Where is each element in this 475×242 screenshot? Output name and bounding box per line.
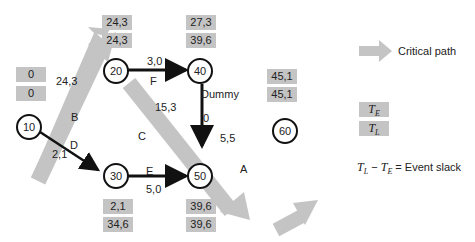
- node-60-tl: 45,1: [267, 87, 297, 102]
- activity-c-name: C: [138, 130, 146, 142]
- activity-e-name: E: [146, 165, 153, 177]
- legend-tl-box: TL: [359, 121, 389, 136]
- node-60: 60: [272, 118, 298, 144]
- activity-b-duration: 24,3: [56, 75, 77, 87]
- node-30-te: 2,1: [103, 199, 133, 214]
- node-40-te: 27,3: [186, 15, 216, 30]
- node-30-tl: 34,6: [103, 217, 133, 232]
- node-30: 30: [103, 163, 129, 189]
- legend-te-box: TE: [359, 102, 389, 117]
- node-10: 10: [16, 114, 42, 140]
- node-50: 50: [187, 163, 213, 189]
- activity-f-duration: 3,0: [147, 55, 162, 67]
- legend-slack-formula: TL − TE = Event slack: [357, 160, 461, 176]
- node-50-te: 39,6: [186, 199, 216, 214]
- activity-dummy-duration: 0: [203, 112, 209, 124]
- legend-critical-label: Critical path: [398, 45, 456, 57]
- node-20: 20: [103, 58, 129, 84]
- node-40: 40: [187, 58, 213, 84]
- activity-c-arrow: [129, 83, 231, 211]
- node-20-tl: 24,3: [102, 33, 132, 48]
- activity-d-duration: 2,1: [52, 148, 67, 160]
- node-10-tl: 0: [16, 86, 46, 101]
- activity-a-name: A: [240, 163, 247, 175]
- node-50-tl: 39,6: [186, 217, 216, 232]
- activity-c-duration: 15,3: [155, 101, 176, 113]
- node-40-tl: 39,6: [186, 33, 216, 48]
- legend-te-t: T: [368, 102, 375, 116]
- activity-b-arrow: [38, 50, 100, 181]
- activity-d-name: D: [70, 139, 78, 151]
- activity-e-duration: 5,0: [146, 183, 161, 195]
- node-20-te: 24,3: [102, 15, 132, 30]
- node-60-te: 45,1: [267, 69, 297, 84]
- legend-critical-arrow: [359, 40, 392, 62]
- legend-tl-sub: L: [375, 128, 379, 137]
- legend-te-sub: E: [375, 109, 380, 118]
- activity-f-name: F: [150, 75, 157, 87]
- activity-a-duration: 5,5: [220, 132, 235, 144]
- node-10-te: 0: [16, 67, 46, 82]
- activity-dummy-name: Dummy: [201, 88, 239, 100]
- activity-b-name: B: [71, 111, 78, 123]
